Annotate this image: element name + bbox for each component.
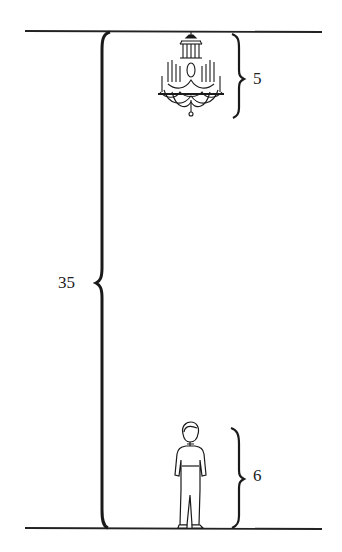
total-height-label: 35: [58, 274, 75, 291]
person-height-brace: [231, 428, 244, 528]
diagram-canvas: [0, 0, 342, 552]
ceiling-line: [25, 31, 322, 32]
floor-line: [25, 528, 322, 529]
chandelier-height-brace: [232, 34, 244, 118]
chandelier-icon: [158, 32, 224, 116]
total-height-brace: [96, 32, 110, 528]
chandelier-height-label: 5: [253, 70, 262, 87]
person-height-label: 6: [253, 467, 262, 484]
person-icon: [175, 422, 206, 528]
